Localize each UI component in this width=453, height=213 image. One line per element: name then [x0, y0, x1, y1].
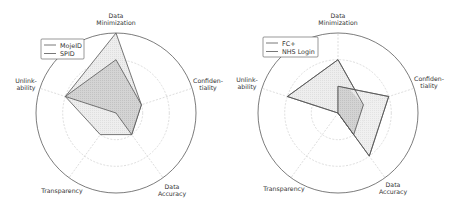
legend-label-spid: SPID — [60, 50, 75, 58]
radar-chart-left: Data Minimization Confiden- tiality Data… — [15, 12, 223, 198]
axis-label-unlinkability: Unlink- — [15, 77, 37, 84]
svg-text:Minimization: Minimization — [96, 19, 135, 26]
legend-label-mojeid: MojeID — [60, 42, 82, 50]
svg-text:ability: ability — [17, 84, 36, 92]
axis-label-transparency: Transparency — [262, 185, 305, 193]
axis-label-transparency: Transparency — [40, 187, 83, 195]
legend-label-fc-plus: FC+ — [282, 40, 296, 48]
axis-label-data-accuracy: Data — [165, 183, 180, 190]
legend: FC+ NHS Login — [263, 37, 318, 57]
axis-label-confidentiality: Confiden- — [193, 77, 223, 84]
svg-text:Minimization: Minimization — [318, 19, 357, 26]
legend: MojeID SPID — [41, 39, 84, 59]
svg-text:Accuracy: Accuracy — [158, 190, 187, 198]
axis-label-data-accuracy: Data — [386, 181, 401, 188]
axis-label-unlinkability: Unlink- — [236, 76, 258, 83]
axis-label-data-minimization: Data — [109, 12, 124, 19]
svg-text:ability: ability — [238, 83, 257, 91]
svg-text:Accuracy: Accuracy — [379, 188, 408, 196]
axis-label-confidentiality: Confiden- — [414, 75, 444, 82]
axis-label-data-minimization: Data — [331, 12, 346, 19]
figure-canvas: Data Minimization Confiden- tiality Data… — [0, 0, 453, 213]
radar-chart-right: Data Minimization Confiden- tiality Data… — [236, 12, 444, 196]
radar-comparison-figure: Data Minimization Confiden- tiality Data… — [0, 0, 453, 213]
svg-text:tiality: tiality — [199, 84, 217, 92]
svg-text:tiality: tiality — [420, 82, 438, 90]
legend-label-nhs-login: NHS Login — [282, 48, 315, 56]
